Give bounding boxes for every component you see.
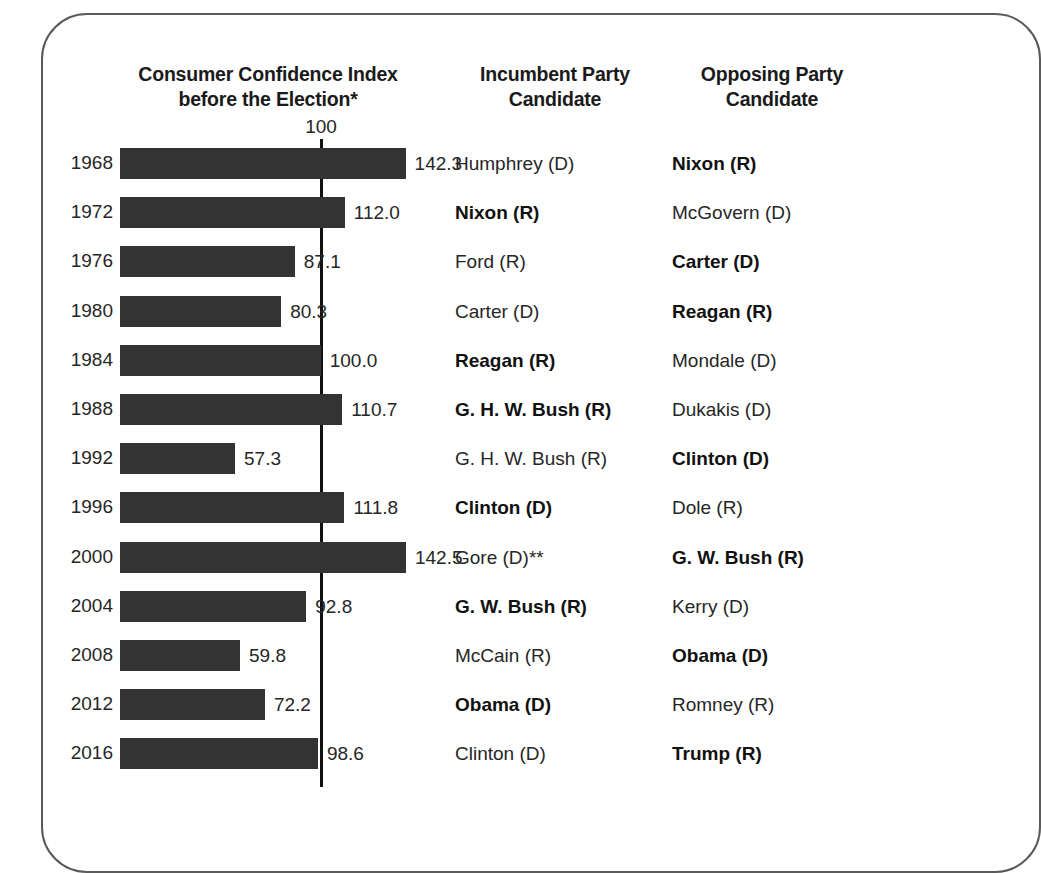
opposing-candidate: Mondale (D) <box>672 350 777 372</box>
chart-row: 201272.2Obama (D)Romney (R) <box>0 682 900 728</box>
incumbent-candidate: Humphrey (D) <box>455 153 574 175</box>
chart-row: 1988110.7G. H. W. Bush (R)Dukakis (D) <box>0 387 900 433</box>
reference-line-label: 100 <box>284 116 358 138</box>
confidence-index-bar <box>120 492 344 523</box>
bar-value-label: 87.1 <box>304 251 341 273</box>
row-year-label: 1972 <box>33 201 113 223</box>
confidence-index-bar <box>120 689 265 720</box>
incumbent-candidate: Ford (R) <box>455 251 526 273</box>
confidence-index-bar <box>120 394 342 425</box>
incumbent-candidate: Clinton (D) <box>455 497 552 519</box>
opposing-candidate: Nixon (R) <box>672 153 756 175</box>
bar-value-label: 98.6 <box>327 743 364 765</box>
row-year-label: 2012 <box>33 693 113 715</box>
opposing-candidate: Obama (D) <box>672 645 768 667</box>
confidence-index-bar <box>120 197 345 228</box>
confidence-index-bar <box>120 246 295 277</box>
opposing-candidate: Kerry (D) <box>672 596 749 618</box>
confidence-index-bar <box>120 591 306 622</box>
chart-header-line1: Consumer Confidence Index <box>108 62 428 87</box>
row-year-label: 1992 <box>33 447 113 469</box>
opposing-candidate: Trump (R) <box>672 743 762 765</box>
chart-row: 201698.6Clinton (D)Trump (R) <box>0 731 900 777</box>
incumbent-candidate: G. H. W. Bush (R) <box>455 399 611 421</box>
chart-row: 200492.8G. W. Bush (R)Kerry (D) <box>0 584 900 630</box>
confidence-index-bar <box>120 443 235 474</box>
chart-row: 2000142.5Gore (D)**G. W. Bush (R) <box>0 535 900 581</box>
opposing-candidate: Dole (R) <box>672 497 743 519</box>
row-year-label: 2008 <box>33 644 113 666</box>
incumbent-column-header: Incumbent Party Candidate <box>455 62 655 112</box>
confidence-index-bar <box>120 542 406 573</box>
bar-value-label: 80.3 <box>290 301 327 323</box>
chart-column-header: Consumer Confidence Index before the Ele… <box>108 62 428 112</box>
incumbent-candidate: McCain (R) <box>455 645 551 667</box>
incumbent-candidate: Carter (D) <box>455 301 539 323</box>
incumbent-candidate: Gore (D)** <box>455 547 544 569</box>
opposing-candidate: G. W. Bush (R) <box>672 547 804 569</box>
confidence-index-bar <box>120 296 281 327</box>
opposing-candidate: Clinton (D) <box>672 448 769 470</box>
bar-value-label: 111.8 <box>353 497 398 519</box>
row-year-label: 1976 <box>33 250 113 272</box>
bar-value-label: 100.0 <box>330 350 378 372</box>
incumbent-header-line1: Incumbent Party <box>455 62 655 87</box>
opposing-candidate: Romney (R) <box>672 694 774 716</box>
confidence-index-bar <box>120 148 406 179</box>
chart-row: 1996111.8Clinton (D)Dole (R) <box>0 485 900 531</box>
row-year-label: 1996 <box>33 496 113 518</box>
chart-header-line2: before the Election* <box>108 87 428 112</box>
bar-value-label: 110.7 <box>351 399 397 421</box>
bar-value-label: 59.8 <box>249 645 286 667</box>
opposing-candidate: McGovern (D) <box>672 202 791 224</box>
bar-value-label: 112.0 <box>354 202 400 224</box>
opposing-candidate: Reagan (R) <box>672 301 772 323</box>
chart-row: 1968142.3Humphrey (D)Nixon (R) <box>0 141 900 187</box>
incumbent-candidate: Reagan (R) <box>455 350 555 372</box>
opposing-candidate: Carter (D) <box>672 251 760 273</box>
incumbent-candidate: Clinton (D) <box>455 743 546 765</box>
row-year-label: 2000 <box>33 546 113 568</box>
opposing-candidate: Dukakis (D) <box>672 399 771 421</box>
row-year-label: 2016 <box>33 742 113 764</box>
row-year-label: 1980 <box>33 300 113 322</box>
incumbent-candidate: G. W. Bush (R) <box>455 596 587 618</box>
incumbent-header-line2: Candidate <box>455 87 655 112</box>
incumbent-candidate: Nixon (R) <box>455 202 539 224</box>
row-year-label: 1968 <box>33 152 113 174</box>
confidence-index-bar <box>120 640 240 671</box>
opposing-header-line1: Opposing Party <box>672 62 872 87</box>
incumbent-candidate: Obama (D) <box>455 694 551 716</box>
confidence-index-bar <box>120 738 318 769</box>
bar-value-label: 57.3 <box>244 448 281 470</box>
row-year-label: 1984 <box>33 349 113 371</box>
chart-row: 197687.1Ford (R)Carter (D) <box>0 239 900 285</box>
chart-row: 199257.3G. H. W. Bush (R)Clinton (D) <box>0 436 900 482</box>
row-year-label: 2004 <box>33 595 113 617</box>
chart-row: 198080.3Carter (D)Reagan (R) <box>0 289 900 335</box>
chart-row: 1984100.0Reagan (R)Mondale (D) <box>0 338 900 384</box>
chart-row: 200859.8McCain (R)Obama (D) <box>0 633 900 679</box>
bar-value-label: 72.2 <box>274 694 311 716</box>
chart-row: 1972112.0Nixon (R)McGovern (D) <box>0 190 900 236</box>
bar-value-label: 92.8 <box>315 596 352 618</box>
opposing-column-header: Opposing Party Candidate <box>672 62 872 112</box>
confidence-index-bar <box>120 345 321 376</box>
incumbent-candidate: G. H. W. Bush (R) <box>455 448 607 470</box>
row-year-label: 1988 <box>33 398 113 420</box>
opposing-header-line2: Candidate <box>672 87 872 112</box>
